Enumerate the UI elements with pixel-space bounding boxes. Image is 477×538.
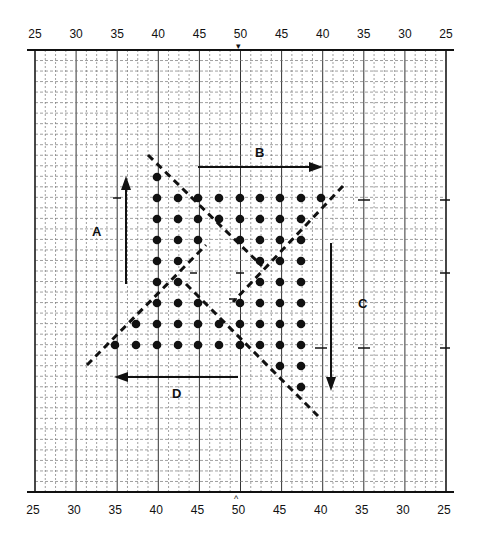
arrow-b: [198, 162, 323, 172]
stitch-dot: [297, 341, 306, 350]
stitch-dot: [236, 320, 245, 329]
dashed-line-3: [233, 186, 343, 302]
stitch-dot: [256, 299, 265, 308]
scale-label-bottom: 45: [273, 503, 287, 517]
stitch-dot: [297, 362, 306, 371]
stitch-dot: [174, 341, 183, 350]
stitch-dot: [132, 320, 141, 329]
stitch-dot: [276, 194, 285, 203]
arrow-label-a: A: [92, 224, 102, 239]
stitch-dot: [215, 341, 224, 350]
arrow-label-b: B: [255, 145, 264, 160]
stitch-dot: [174, 257, 183, 266]
stitch-dot: [111, 341, 120, 350]
scale-label-bottom: 35: [109, 503, 123, 517]
stitch-dot: [236, 215, 245, 224]
stitch-dot: [153, 278, 162, 287]
stitch-dot: [276, 236, 285, 245]
stitch-dot: [174, 299, 183, 308]
scale-label-bottom: 30: [67, 503, 81, 517]
scale-label-top: 30: [69, 27, 83, 41]
dashed-line-4: [87, 245, 206, 365]
stitch-dot: [153, 320, 162, 329]
arrow-c: [326, 243, 336, 391]
scale-label-bottom: 25: [26, 503, 40, 517]
top-scale: 2530354045504540353025: [28, 27, 453, 41]
scale-label-top: 25: [28, 27, 42, 41]
scale-label-bottom: 50: [232, 503, 246, 517]
arrow-label-d: D: [172, 386, 181, 401]
center-marker-top: ▾: [236, 41, 241, 51]
stitch-dot: [194, 341, 203, 350]
stitch-dot: [174, 278, 183, 287]
stitch-dot: [153, 173, 162, 182]
stitch-dot: [256, 194, 265, 203]
stitch-dot: [297, 215, 306, 224]
scale-label-bottom: 40: [150, 503, 164, 517]
arrowhead-down-icon: [326, 377, 336, 391]
scale-label-top: 35: [357, 27, 371, 41]
stitch-dot: [174, 236, 183, 245]
scale-label-top: 50: [234, 27, 248, 41]
stitch-dot: [276, 341, 285, 350]
grid: [27, 50, 454, 492]
scale-label-top: 35: [111, 27, 125, 41]
stitch-dot: [256, 215, 265, 224]
stitch-dot: [236, 341, 245, 350]
stitch-dot: [194, 236, 203, 245]
arrow-label-c: C: [358, 296, 368, 311]
stitch-dot: [276, 257, 285, 266]
dashed-line-1: [148, 155, 262, 266]
scale-label-top: 30: [398, 27, 412, 41]
stitch-dot: [215, 215, 224, 224]
stitch-dot: [256, 236, 265, 245]
stitch-dot: [297, 383, 306, 392]
arrowhead-left-icon: [114, 372, 128, 382]
stitch-dot: [174, 194, 183, 203]
stitch-dot: [194, 299, 203, 308]
scale-label-top: 45: [275, 27, 289, 41]
scale-label-top: 40: [152, 27, 166, 41]
scale-label-bottom: 40: [314, 503, 328, 517]
stitch-dot: [256, 341, 265, 350]
stitch-dot: [276, 299, 285, 308]
stitch-chart: 2530354045504540353025 25303540455045403…: [0, 0, 477, 538]
arrow-a: [121, 176, 131, 284]
stitch-dot: [153, 236, 162, 245]
stitch-dot: [194, 320, 203, 329]
stitch-dot: [236, 194, 245, 203]
stitch-dot: [174, 320, 183, 329]
stitch-dot: [153, 215, 162, 224]
stitch-dot: [276, 215, 285, 224]
stitch-dot: [276, 362, 285, 371]
stitch-dot: [174, 215, 183, 224]
stitch-dot: [236, 299, 245, 308]
arrowhead-up-icon: [121, 176, 131, 190]
stitch-dot: [256, 320, 265, 329]
arrow-d: [114, 372, 238, 382]
stitch-dot: [194, 215, 203, 224]
stitch-dot: [276, 320, 285, 329]
stitch-dot: [153, 257, 162, 266]
stitch-dot: [317, 194, 326, 203]
stitch-dot: [153, 341, 162, 350]
stitch-dot: [256, 278, 265, 287]
stitch-dot: [297, 278, 306, 287]
stitch-dot: [153, 194, 162, 203]
arrowhead-right-icon: [309, 162, 323, 172]
stitch-dot: [132, 341, 141, 350]
stitch-dot: [297, 194, 306, 203]
stitch-dot: [297, 299, 306, 308]
stitch-dot: [297, 320, 306, 329]
scale-label-bottom: 30: [396, 503, 410, 517]
bottom-scale: 2530354045504540353025: [26, 503, 451, 517]
scale-label-top: 40: [316, 27, 330, 41]
stitch-dot: [276, 278, 285, 287]
stitch-dot: [297, 257, 306, 266]
stitch-dot: [297, 236, 306, 245]
stitch-dot: [153, 299, 162, 308]
stitch-dot: [215, 194, 224, 203]
scale-label-top: 45: [193, 27, 207, 41]
dot-pattern: [111, 173, 326, 392]
scale-label-bottom: 35: [355, 503, 369, 517]
